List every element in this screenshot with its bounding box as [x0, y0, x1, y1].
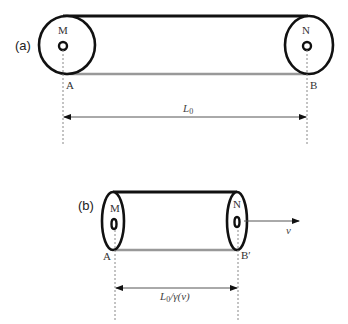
rod-a-length-label: L0 [182, 102, 193, 116]
rod-b-length-label: L0/γ(v) [159, 290, 190, 304]
rod-a-label-n: N [302, 24, 310, 36]
rod-a-label-b: B [310, 79, 317, 91]
length-contraction-diagram: (a) M N A B L0 (b) M N [0, 0, 348, 324]
panel-b-label: (b) [78, 198, 94, 213]
velocity-label: v [286, 224, 291, 236]
panel-a: (a) M N A B L0 [15, 16, 333, 145]
panel-a-label: (a) [15, 38, 31, 53]
rod-a-label-m: M [58, 24, 68, 36]
rod-b-label-b-prime: B′ [241, 249, 251, 261]
rod-a-label-a: A [66, 79, 74, 91]
rod-b-label-n: N [233, 198, 241, 210]
rod-b-label-m: M [110, 202, 120, 214]
panel-b: (b) M N v A B′ L0/γ(v) [78, 192, 299, 322]
rod-b-label-a: A [103, 250, 111, 262]
